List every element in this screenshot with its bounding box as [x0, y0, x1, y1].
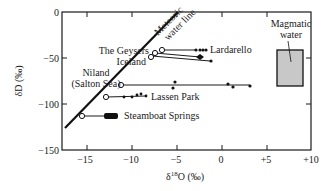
y-tick-label: −50 — [43, 53, 59, 64]
x-tick-label: 0 — [219, 154, 224, 165]
label-lardarello: Lardarello — [210, 44, 252, 55]
y-tick-label: 0 — [54, 7, 59, 18]
y-tick-label: −150 — [38, 145, 59, 156]
y-tick-label: −100 — [38, 99, 59, 110]
label-lassen: Lassen Park — [151, 91, 200, 102]
label-magmatic: Magmatic — [271, 18, 312, 29]
x-axis-title: δ18O (‰) — [166, 170, 204, 183]
y-axis-title: δD (‰) — [13, 65, 25, 96]
x-tick-label: +5 — [261, 154, 272, 165]
label-niland: (Salton Sea) — [71, 78, 120, 90]
x-tick-label: −5 — [171, 154, 182, 165]
label-niland: Niland — [82, 67, 109, 78]
label-iceland: Iceland — [117, 56, 146, 67]
label-geysers: The Geysers — [99, 45, 149, 56]
x-tick-label: −10 — [123, 154, 139, 165]
x-tick-label: +10 — [303, 154, 319, 165]
isotope-chart: −15 −10 −5 0 +5 +10 0 −50 −100 −150 δD (… — [0, 0, 334, 191]
x-tick-label: −15 — [77, 154, 93, 165]
label-magmatic: water — [280, 29, 303, 40]
label-steamboat: Steamboat Springs — [124, 110, 199, 121]
